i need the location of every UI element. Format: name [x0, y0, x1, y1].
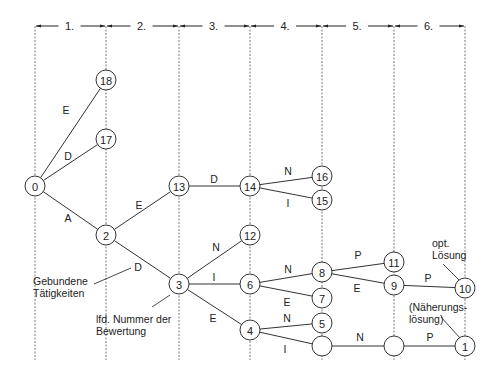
node-3: 3 — [169, 274, 189, 294]
node-label: 2 — [103, 230, 109, 242]
decision-tree-diagram: 1.2.3.4.5.6. EDAEDNINIENENIPEPNP Gebunde… — [0, 0, 502, 371]
node-label: 12 — [244, 230, 256, 242]
node-14: 14 — [240, 176, 260, 196]
edge-label: P — [354, 249, 361, 261]
stage-label: 3. — [209, 20, 218, 32]
edge-n3-n6: I — [189, 271, 240, 284]
node-label: 17 — [100, 134, 112, 146]
edge-label: I — [213, 271, 216, 283]
node-label: 15 — [316, 195, 328, 207]
edge-label: N — [212, 241, 220, 253]
edge-n4-n5: N — [260, 312, 312, 329]
node-label: 6 — [247, 279, 253, 291]
edge-n3-n4: E — [187, 289, 241, 324]
edge-line — [114, 241, 170, 279]
node-15: 15 — [312, 190, 332, 210]
annotation-text: lösung) — [409, 313, 443, 325]
annotation-text: Gebundene — [33, 275, 88, 287]
edge-n9-n10: P — [404, 272, 455, 288]
node-label: 8 — [319, 267, 325, 279]
annotation-pointer — [94, 268, 131, 284]
annotation-activities: GebundeneTätigkeitenD — [33, 261, 142, 299]
edge-label: N — [284, 165, 292, 177]
node-label: 10 — [459, 283, 471, 295]
node-18: 18 — [96, 70, 116, 90]
edge-line — [404, 285, 455, 287]
annotation-pointer — [152, 295, 170, 307]
stage-label: 2. — [137, 20, 146, 32]
node-0: 0 — [25, 176, 45, 196]
stage-label: 4. — [280, 20, 289, 32]
node-circle — [312, 336, 332, 356]
edge-label: I — [284, 343, 287, 355]
node-label: 4 — [247, 325, 253, 337]
node-7: 7 — [312, 288, 332, 308]
node-10: 10 — [455, 278, 475, 298]
edge-label: N — [283, 312, 291, 324]
stage-3: 3. — [180, 20, 249, 32]
stage-4: 4. — [251, 20, 321, 32]
annotation-approx: (Näherungs-lösung) — [409, 301, 468, 338]
node-label: 5 — [319, 318, 325, 330]
edge-line — [260, 177, 312, 184]
node-9: 9 — [384, 275, 404, 295]
edge-label: P — [426, 331, 433, 343]
node-label: 18 — [100, 75, 112, 87]
node-label: 11 — [388, 257, 399, 269]
edge-label: D — [134, 261, 142, 273]
annotation-optimal: opt.Lösung — [432, 237, 467, 280]
stage-1: 1. — [36, 20, 105, 32]
annotation-text: (Näherungs- — [409, 301, 468, 313]
edge-n6-n7: E — [260, 286, 312, 308]
node-label: 7 — [319, 293, 325, 305]
node-5: 5 — [312, 313, 332, 333]
edge-label: E — [353, 282, 360, 294]
node-circle — [384, 336, 404, 356]
node-label: 9 — [391, 280, 397, 292]
edge-n0-n2: A — [43, 192, 98, 230]
node-4: 4 — [240, 320, 260, 340]
edge-line — [260, 324, 312, 329]
edge-label: E — [283, 296, 290, 308]
annotation-text: Lösung — [432, 249, 467, 261]
edge-label: E — [62, 104, 69, 116]
edge-n8-n9: E — [332, 274, 384, 294]
node-label: 1 — [462, 341, 468, 353]
node-label: 13 — [173, 181, 185, 193]
node-17: 17 — [96, 129, 116, 149]
stage-6: 6. — [395, 20, 464, 32]
node-6: 6 — [240, 274, 260, 294]
annotation-pointer — [443, 264, 459, 280]
edge-n2-n3 — [114, 241, 170, 279]
edge-label: D — [64, 150, 72, 162]
node-11: 11 — [384, 252, 404, 272]
node-16: 16 — [312, 166, 332, 186]
node-label: 3 — [176, 279, 182, 291]
node-label: 0 — [32, 181, 38, 193]
edge-n4-nE1: I — [260, 332, 312, 355]
edge-label: E — [209, 312, 216, 324]
annotation-text: opt. — [432, 237, 450, 249]
edge-nE2-n1: P — [404, 331, 455, 346]
annotation-pointer — [441, 317, 460, 338]
annotation-text: lfd. Nummer der — [96, 313, 172, 325]
edge-n0-n17: D — [43, 145, 97, 181]
edge-label: D — [210, 173, 218, 185]
stage-label: 1. — [65, 20, 74, 32]
stage-2: 2. — [107, 20, 178, 32]
edge-line — [332, 263, 384, 270]
stage-label: 6. — [424, 20, 433, 32]
edge-n0-n18: E — [41, 88, 101, 177]
edge-label: I — [287, 197, 290, 209]
node-8: 8 — [312, 262, 332, 282]
node-2: 2 — [96, 225, 116, 245]
node-empty — [312, 336, 332, 356]
edge-line — [41, 88, 101, 177]
stage-5: 5. — [323, 20, 393, 32]
edge-n6-n8: N — [260, 263, 312, 282]
edge-label: N — [284, 263, 292, 275]
node-label: 14 — [244, 181, 256, 193]
node-1: 1 — [455, 336, 475, 356]
edge-n14-n16: N — [260, 165, 312, 185]
annotation-eval-number: lfd. Nummer derBewertung — [96, 295, 172, 337]
